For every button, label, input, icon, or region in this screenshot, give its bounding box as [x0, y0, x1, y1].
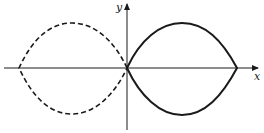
y-axis-label: y — [115, 1, 123, 14]
x-axis-label: x — [254, 70, 261, 83]
diagram-canvas: y x — [0, 0, 264, 133]
solid-loop-curve — [127, 23, 237, 115]
